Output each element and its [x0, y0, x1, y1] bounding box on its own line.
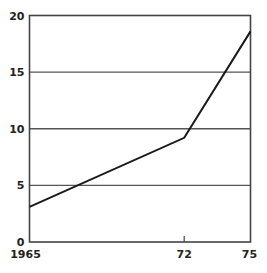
x-axis: 19657275 — [10, 236, 257, 261]
y-tick-label: 5 — [17, 179, 25, 192]
data-line — [30, 31, 251, 207]
x-tick-label: 1965 — [10, 248, 41, 261]
x-tick-label: 72 — [177, 248, 192, 261]
y-axis: 05101520 — [9, 10, 25, 250]
y-tick-label: 20 — [9, 10, 25, 23]
gridlines — [30, 72, 251, 185]
line-chart: 05101520 19657275 — [0, 0, 267, 273]
y-tick-label: 10 — [9, 123, 25, 136]
y-tick-label: 15 — [9, 66, 24, 79]
x-tick-label: 75 — [242, 248, 257, 261]
